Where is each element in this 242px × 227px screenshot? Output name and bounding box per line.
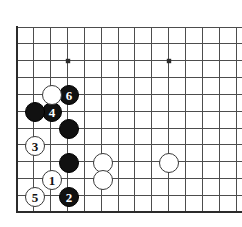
star-point [66,59,70,63]
move-number-label: 4 [49,105,56,118]
move-number-label: 1 [49,173,56,186]
go-stone-black-a [25,102,45,122]
go-stone-black-6: 6 [59,85,79,105]
go-stone-white-5: 5 [25,187,45,207]
star-point [167,59,171,63]
go-board-diagram: 123456 [0,0,242,227]
go-stone-white-1: 1 [42,170,62,190]
go-stone-white-3: 3 [25,136,45,156]
move-number-label: 2 [66,190,73,203]
go-stone-white-d [159,153,179,173]
move-number-label: 6 [66,88,73,101]
go-stone-white-c [93,170,113,190]
go-stone-white-a [42,85,62,105]
move-number-label: 5 [32,190,39,203]
move-number-label: 3 [32,139,39,152]
go-stone-black-4: 4 [42,102,62,122]
go-stone-black-b [59,119,79,139]
go-stone-black-c [59,153,79,173]
go-stone-black-2: 2 [59,187,79,207]
